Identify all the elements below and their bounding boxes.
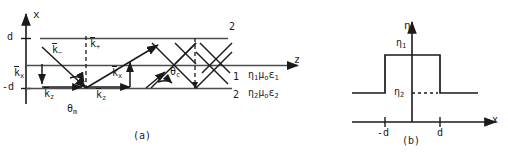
panel-a-ray-k-minus [42, 47, 86, 88]
eta2-sub: 2 [400, 91, 404, 99]
eta-sub-top: 1 [254, 74, 258, 82]
panel-b-eta-axis-label: η [404, 20, 411, 31]
panel-a-components-left [42, 64, 82, 87]
panel-a-ray-k-plus [86, 45, 158, 88]
eta1-sub: 1 [402, 42, 406, 50]
eps-symbol-bot: ε [269, 87, 275, 98]
panel-a-x-axis-label: x [33, 9, 40, 20]
theta-m-sub: m [73, 108, 77, 116]
panel-a-region-label-bot: 2 [233, 90, 239, 100]
panel-b-x-axis-label: x [492, 115, 498, 125]
panel-b-index-profile-curve [352, 55, 478, 93]
eps-sub-bot: 2 [275, 92, 279, 100]
vector-label-kz-left: kz [44, 89, 54, 99]
figure-two-panel-slab-waveguide: x d -d z 2 1 2 η1μoε1 η2μoε2 k− k+ kx kz… [0, 0, 508, 152]
angle-label-theta-c: θc [170, 67, 180, 77]
panel-a-z-axis-label: z [294, 55, 300, 65]
panel-a-region-label-mid: 1 [233, 72, 239, 82]
vector-label-k-plus: k+ [90, 39, 100, 49]
kz-left-sub: z [50, 93, 54, 101]
panel-b-tick-label-minus-d: -d [377, 128, 389, 138]
panel-b-level-label-eta2: η2 [394, 87, 404, 97]
eta-sub-bot: 2 [254, 92, 258, 100]
panel-a-tick-label-minus-d: -d [2, 82, 14, 92]
panel-a-region-label-top: 2 [229, 22, 235, 32]
eps-symbol-top: ε [269, 69, 275, 80]
vector-label-kx-left: kx [14, 68, 24, 78]
kz-right-sub: z [102, 94, 106, 102]
panel-a-caption: (a) [133, 131, 151, 141]
k-minus-sub: − [58, 49, 62, 57]
theta-c-sub: c [176, 71, 180, 79]
panel-b-axes [352, 22, 496, 127]
angle-label-theta-m: θm [67, 104, 77, 114]
panel-b-level-label-eta1: η1 [396, 38, 406, 48]
panel-b-caption: (b) [402, 136, 420, 146]
vector-label-kx-right: kx [112, 68, 122, 78]
panel-a-tick-label-d: d [7, 32, 13, 42]
panel-a-medium-bot-params: η2μoε2 [248, 88, 279, 98]
panel-a-axes [21, 14, 31, 104]
panel-b-tick-label-d: d [437, 128, 443, 138]
eps-sub-top: 1 [275, 74, 279, 82]
k-plus-sub: + [96, 43, 100, 51]
vector-label-kz-right: kz [96, 90, 106, 100]
kx-right-sub: x [118, 72, 122, 80]
mu-sub-bot: o [264, 92, 268, 100]
mu-sub-top: o [264, 74, 268, 82]
kx-left-sub: x [20, 72, 24, 80]
vector-label-k-minus: k− [52, 45, 62, 55]
panel-a-medium-top-params: η1μoε1 [248, 70, 279, 80]
